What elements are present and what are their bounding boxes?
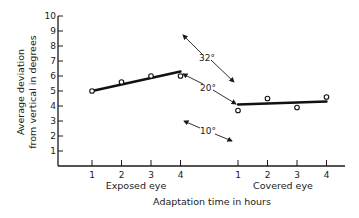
data-point — [149, 74, 154, 79]
y-axis-title-line1: Average deviation — [15, 49, 26, 135]
data-point — [324, 95, 329, 100]
x-tick-label: 4 — [178, 170, 184, 180]
y-tick-label: 9 — [50, 26, 56, 36]
chart: 12345678910 12341234 32°20°10° Average d… — [0, 0, 359, 218]
y-tick-label: 1 — [50, 146, 56, 156]
angle-label: 20° — [200, 83, 216, 93]
y-axis: 12345678910 — [45, 11, 63, 166]
angle-arrow — [211, 60, 234, 82]
group-label-exposed: Exposed eye — [106, 180, 167, 191]
angle-label: 32° — [199, 53, 215, 63]
y-tick-label: 7 — [50, 56, 56, 66]
angle-arrow — [213, 90, 236, 104]
angle-arrow — [184, 121, 200, 128]
data-point — [178, 74, 183, 79]
x-tick-label: 3 — [294, 170, 300, 180]
y-tick-label: 5 — [50, 86, 56, 96]
x-tick-label: 1 — [235, 170, 241, 180]
y-axis-title-line2: from vertical in degrees — [27, 35, 38, 149]
data-point — [265, 96, 270, 101]
x-axis: 12341234 — [58, 160, 345, 180]
data-point — [295, 105, 300, 110]
annotations: 32°20°10° — [183, 35, 236, 141]
x-tick-label: 3 — [148, 170, 154, 180]
fit-line — [92, 72, 181, 92]
y-tick-label: 4 — [50, 101, 56, 111]
y-tick-label: 8 — [50, 41, 56, 51]
angle-label: 10° — [200, 126, 216, 136]
x-tick-label: 4 — [324, 170, 330, 180]
x-axis-title: Adaptation time in hours — [153, 196, 271, 207]
x-tick-label: 2 — [119, 170, 125, 180]
y-tick-label: 2 — [50, 131, 56, 141]
data-point — [119, 80, 124, 85]
y-tick-label: 3 — [50, 116, 56, 126]
y-tick-label: 6 — [50, 71, 56, 81]
data-point — [90, 89, 95, 94]
fit-line — [238, 102, 327, 105]
group-label-covered: Covered eye — [253, 180, 313, 191]
data-point — [236, 108, 241, 113]
x-tick-label: 1 — [89, 170, 95, 180]
y-tick-label: 10 — [45, 11, 57, 21]
angle-arrow — [183, 35, 203, 55]
x-tick-label: 2 — [265, 170, 271, 180]
angle-arrow — [215, 134, 232, 141]
